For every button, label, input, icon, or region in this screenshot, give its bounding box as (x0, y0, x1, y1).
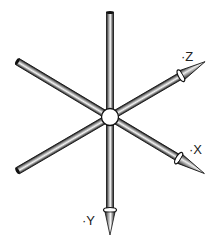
z-axis-label: ·Z (181, 49, 193, 64)
coordinate-axes-diagram: ·Z ·X ·Y (0, 0, 222, 245)
origin-hub (102, 109, 119, 126)
x-axis-label: ·X (189, 142, 202, 157)
y-arrow-icon (105, 212, 115, 235)
y-axis-label: ·Y (82, 213, 95, 228)
x-arrow-icon (178, 155, 207, 178)
